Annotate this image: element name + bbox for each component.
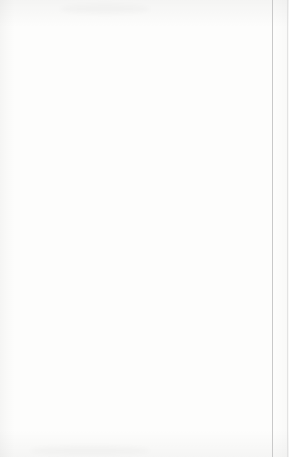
grid-svg (0, 0, 289, 457)
coordinate-plot (0, 0, 289, 457)
